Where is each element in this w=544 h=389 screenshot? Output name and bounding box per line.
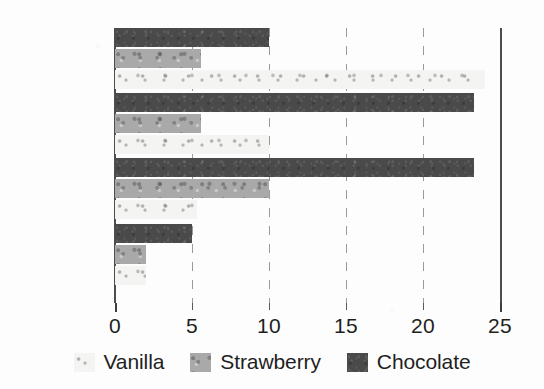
bar-benjamin-vanilla (115, 135, 269, 154)
legend-item-chocolate[interactable]: Chocolate (347, 350, 471, 374)
x-tick-5 (192, 303, 193, 310)
x-tick-25 (500, 303, 502, 312)
plot-area: 0510152025 PedroBenjaminNicoleSusan (115, 28, 500, 303)
bar-pedro-chocolate (115, 28, 269, 47)
chocolate-swatch (347, 353, 368, 372)
legend-label-strawberry: Strawberry (220, 350, 321, 374)
bar-susan-vanilla (115, 266, 146, 285)
legend-item-strawberry[interactable]: Strawberry (190, 350, 321, 374)
bar-pedro-vanilla (115, 70, 485, 89)
chart-page: 0510152025 PedroBenjaminNicoleSusan Vani… (0, 0, 544, 389)
chart-legend: VanillaStrawberryChocolate (0, 350, 544, 374)
x-tick-10 (269, 303, 270, 310)
x-tick-label-0: 0 (109, 314, 121, 338)
strawberry-swatch (190, 353, 211, 372)
x-tick-label-15: 15 (334, 314, 358, 338)
bar-nicole-vanilla (115, 200, 197, 219)
legend-item-vanilla[interactable]: Vanilla (74, 350, 165, 374)
x-tick-label-20: 20 (411, 314, 435, 338)
x-tick-0 (115, 303, 117, 312)
x-tick-20 (423, 303, 424, 310)
legend-label-chocolate: Chocolate (377, 350, 471, 374)
bar-pedro-strawberry (115, 49, 201, 68)
x-tick-label-25: 25 (488, 314, 512, 338)
bar-susan-strawberry (115, 245, 146, 264)
x-tick-15 (346, 303, 347, 310)
legend-label-vanilla: Vanilla (104, 350, 165, 374)
vanilla-swatch (74, 353, 95, 372)
x-tick-label-10: 10 (257, 314, 281, 338)
bar-benjamin-chocolate (115, 93, 474, 112)
x-tick-label-5: 5 (186, 314, 198, 338)
bar-nicole-strawberry (115, 179, 269, 198)
bar-susan-chocolate (115, 224, 192, 243)
bar-benjamin-strawberry (115, 114, 201, 133)
bar-nicole-chocolate (115, 158, 474, 177)
gridline-25 (500, 28, 502, 303)
